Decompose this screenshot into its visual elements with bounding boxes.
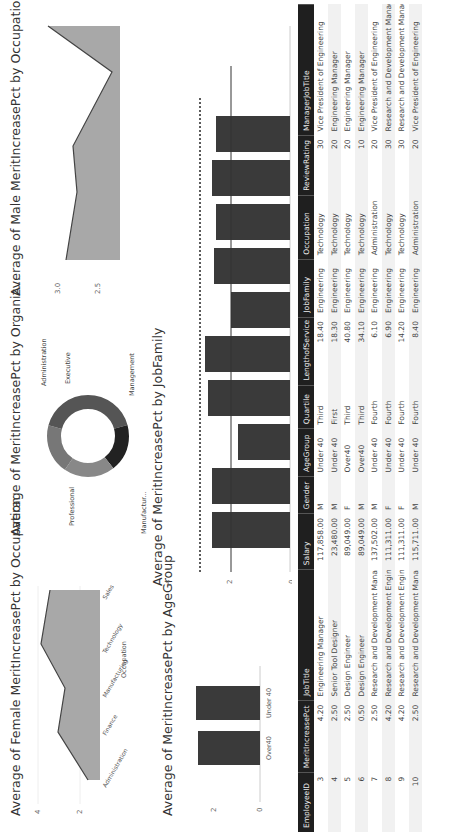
cell: 2.50 bbox=[328, 701, 342, 773]
svg-text:0: 0 bbox=[288, 580, 292, 584]
cell: Engineering bbox=[409, 259, 423, 317]
y-tick: 4 bbox=[34, 809, 42, 814]
cell: Design Engineer bbox=[341, 570, 355, 701]
jobfamily-chart[interactable]: Average of MeritIncreasePct by JobFamily… bbox=[150, 226, 290, 586]
col-employeeid[interactable]: EmployeeID bbox=[298, 773, 314, 832]
table-row[interactable]: 8 4.20 Research and Development Engineer… bbox=[382, 5, 396, 833]
cell: Engineering bbox=[382, 259, 396, 317]
cell: 3 bbox=[314, 773, 328, 832]
table-row[interactable]: 10 2.50 Research and Development Manager… bbox=[409, 5, 423, 833]
cell: F bbox=[341, 476, 355, 514]
svg-text:Under 40: Under 40 bbox=[265, 688, 273, 718]
svg-text:Over40: Over40 bbox=[265, 736, 273, 760]
bar-under40[interactable] bbox=[196, 686, 260, 720]
cell: Engineering bbox=[395, 259, 409, 317]
table-row[interactable]: 5 2.50 Design Engineer 89,049.00 F Over4… bbox=[341, 5, 355, 833]
cell: 6 bbox=[355, 773, 369, 832]
col-quartile[interactable]: Quartile bbox=[298, 385, 314, 429]
cell: Research and Development Manager bbox=[409, 570, 423, 701]
cell: Engineering bbox=[341, 259, 355, 317]
col-managerjobtitle[interactable]: ManagerJobTitle bbox=[298, 5, 314, 136]
cell: 2.50 bbox=[341, 701, 355, 773]
female-occupation-chart[interactable]: Average of Female MeritIncreasePct by Oc… bbox=[8, 576, 128, 816]
cell: Engineering bbox=[328, 259, 342, 317]
cell: Under 40 bbox=[314, 429, 328, 477]
cell: 137,502.00 bbox=[368, 514, 382, 570]
cell: 6.90 bbox=[382, 317, 396, 385]
cell: Research and Development Manager bbox=[382, 5, 396, 136]
col-lengthofservice[interactable]: LengthofService bbox=[298, 317, 314, 385]
table-row[interactable]: 7 2.50 Research and Development Manager … bbox=[368, 5, 382, 833]
cell: M bbox=[368, 476, 382, 514]
cell: Technology bbox=[328, 195, 342, 259]
cell: Under 40 bbox=[382, 429, 396, 477]
male-area-plot: 3.0 2.5 bbox=[24, 6, 144, 296]
cell: Research and Development Manager bbox=[395, 5, 409, 136]
cell: Technology bbox=[314, 195, 328, 259]
cell: M bbox=[409, 476, 423, 514]
cell: Research and Development Engineer bbox=[395, 570, 409, 701]
table-row[interactable]: 4 2.50 Senior Tool Designer 23,480.00 M … bbox=[328, 5, 342, 833]
cell: Administration bbox=[409, 195, 423, 259]
col-salary[interactable]: Salary bbox=[298, 514, 314, 570]
cell: 0.50 bbox=[355, 701, 369, 773]
col-meritincreasepct[interactable]: MeritIncreasePct bbox=[298, 701, 314, 773]
cell: 111,311.00 bbox=[382, 514, 396, 570]
cell: 115,711.00 bbox=[409, 514, 423, 570]
cell: Under 40 bbox=[409, 429, 423, 477]
cell: 7 bbox=[368, 773, 382, 832]
cell: 20 bbox=[368, 135, 382, 195]
cell: Engineering Manager bbox=[355, 5, 369, 136]
cell: 6.10 bbox=[368, 317, 382, 385]
cell: Engineering Manager bbox=[328, 5, 342, 136]
cell: 20 bbox=[409, 135, 423, 195]
col-agegroup[interactable]: AgeGroup bbox=[298, 429, 314, 477]
cell: 10 bbox=[355, 135, 369, 195]
cell: Over40 bbox=[341, 429, 355, 477]
x-axis-title: Occupation bbox=[120, 641, 128, 678]
cell: 8 bbox=[382, 773, 396, 832]
svg-text:Management: Management bbox=[128, 353, 136, 396]
svg-text:2.5: 2.5 bbox=[94, 283, 102, 294]
svg-text:Finance: Finance bbox=[101, 713, 119, 737]
cell: Vice President of Engineering bbox=[314, 5, 328, 136]
col-reviewrating[interactable]: ReviewRating bbox=[298, 135, 314, 195]
cell: M bbox=[328, 476, 342, 514]
cell: M bbox=[355, 476, 369, 514]
employee-table[interactable]: EmployeeID MeritIncreasePct JobTitle Sal… bbox=[298, 4, 448, 832]
cell: Fourth bbox=[368, 385, 382, 429]
chart-title: Average of Male MeritIncreasePct by Occu… bbox=[8, 0, 23, 296]
chart-title: Average of MeritIncreasePct by Organiz..… bbox=[8, 277, 23, 536]
male-occupation-chart[interactable]: Average of Male MeritIncreasePct by Occu… bbox=[8, 6, 148, 296]
svg-text:Professional: Professional bbox=[68, 487, 76, 526]
bar-over40[interactable] bbox=[198, 731, 260, 765]
table-row[interactable]: 3 4.20 Engineering Manager 117,858.00 M … bbox=[314, 5, 328, 833]
cell: 2.50 bbox=[368, 701, 382, 773]
cell: Technology bbox=[395, 195, 409, 259]
cell: 40.80 bbox=[341, 317, 355, 385]
svg-text:0: 0 bbox=[256, 808, 264, 812]
table-row[interactable]: 6 0.50 Design Engineer 89,049.00 M Over4… bbox=[355, 5, 369, 833]
table-row[interactable]: 9 4.20 Research and Development Engineer… bbox=[395, 5, 409, 833]
cell: 89,049.00 bbox=[341, 514, 355, 570]
col-jobfamily[interactable]: JobFamily bbox=[298, 259, 314, 317]
col-occupation[interactable]: Occupation bbox=[298, 195, 314, 259]
cell: 14.20 bbox=[395, 317, 409, 385]
cell: 9 bbox=[395, 773, 409, 832]
cell: 5 bbox=[341, 773, 355, 832]
cell: 20 bbox=[328, 135, 342, 195]
agegroup-bar-plot: 2 0 Over40 Under 40 bbox=[176, 646, 276, 816]
svg-text:3.0: 3.0 bbox=[54, 283, 62, 294]
cell: Fourth bbox=[382, 385, 396, 429]
svg-text:4: 4 bbox=[164, 579, 172, 584]
cell: Research and Development Engineer bbox=[382, 570, 396, 701]
donut-plot: Administration Executive Management Manu… bbox=[22, 336, 152, 536]
svg-text:Manufactur...: Manufactur... bbox=[140, 491, 148, 534]
col-gender[interactable]: Gender bbox=[298, 476, 314, 514]
agegroup-chart[interactable]: Average of MeritIncreasePct by AgeGroup … bbox=[160, 666, 280, 816]
svg-text:Administration: Administration bbox=[40, 338, 48, 386]
col-jobtitle[interactable]: JobTitle bbox=[298, 570, 314, 701]
cell: 23,480.00 bbox=[328, 514, 342, 570]
cell: F bbox=[382, 476, 396, 514]
cell: 4.20 bbox=[314, 701, 328, 773]
